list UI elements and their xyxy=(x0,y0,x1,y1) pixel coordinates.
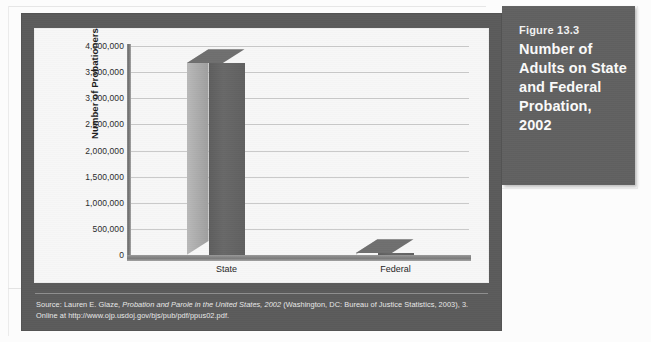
x-axis-baseline xyxy=(127,255,471,261)
bar-front-face xyxy=(209,63,245,255)
gridline xyxy=(131,72,469,73)
figure-title: Number of Adults on State and Federal Pr… xyxy=(519,40,627,135)
y-axis-tick: 0 xyxy=(119,250,124,260)
gridline xyxy=(131,98,469,99)
y-axis-tick: 2,000,000 xyxy=(85,146,124,156)
caption-frame-bottom xyxy=(502,188,638,189)
y-axis-tick: 500,000 xyxy=(93,224,124,234)
source-separator xyxy=(35,293,488,294)
figure-panel: Number of Probationers 4,000,0003,500,00… xyxy=(22,14,501,330)
x-axis-tick-labels: StateFederal xyxy=(131,264,469,280)
page-edge-left xyxy=(8,6,9,336)
gridline xyxy=(131,151,469,152)
y-axis-tick-labels: 4,000,0003,500,0003,000,0002,500,0002,00… xyxy=(48,46,124,255)
x-axis-tick-state: State xyxy=(216,264,237,274)
source-suffix: (Washington, DC: Bureau of Justice Stati… xyxy=(281,300,468,309)
source-online-line: Online at http://www.ojp.usdoj.gov/bjs/p… xyxy=(36,311,229,320)
caption-frame-right xyxy=(637,6,638,189)
bar-federal xyxy=(356,239,414,255)
y-axis-tick: 2,500,000 xyxy=(85,119,124,129)
source-citation: Source: Lauren E. Glaze, Probation and P… xyxy=(36,299,488,321)
chart-area: Number of Probationers 4,000,0003,500,00… xyxy=(34,28,489,283)
gridline xyxy=(131,203,469,204)
y-axis-tick: 1,500,000 xyxy=(85,172,124,182)
bar-top-face xyxy=(356,239,414,253)
y-axis-tick: 4,000,000 xyxy=(85,41,124,51)
page-edge-top xyxy=(8,6,486,7)
plot-area xyxy=(131,46,469,255)
figure-page: Number of Probationers 4,000,0003,500,00… xyxy=(0,0,651,342)
gridline xyxy=(131,46,469,47)
y-axis-tick: 3,500,000 xyxy=(85,67,124,77)
source-italic-title: Probation and Parole in the United State… xyxy=(122,300,281,309)
bar-top-face xyxy=(187,49,245,63)
y-axis-tick: 1,000,000 xyxy=(85,198,124,208)
bar-state xyxy=(187,49,245,255)
x-axis-tick-federal: Federal xyxy=(380,264,411,274)
figure-caption-box: Figure 13.3 Number of Adults on State an… xyxy=(502,6,635,185)
figure-number-label: Figure 13.3 xyxy=(519,24,579,36)
gridline xyxy=(131,124,469,125)
source-prefix: Source: Lauren E. Glaze, xyxy=(36,300,122,309)
gridline xyxy=(131,229,469,230)
bar-side-face xyxy=(187,49,209,255)
gridline xyxy=(131,177,469,178)
y-axis-tick: 3,000,000 xyxy=(85,93,124,103)
